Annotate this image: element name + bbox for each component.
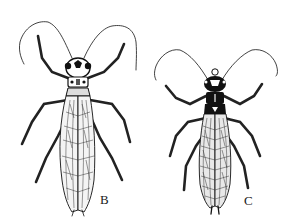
- specimen-b-eye-right: [85, 63, 91, 69]
- specimen-c-ocellus: [212, 69, 218, 75]
- specimen-c-pronotum-line: [214, 94, 216, 102]
- specimen-b-thorax: [66, 88, 90, 96]
- specimen-c-foreleg-right: [224, 84, 262, 104]
- illustration: B: [0, 0, 293, 223]
- specimen-b-antenna-left: [19, 22, 72, 64]
- specimen-c-wing-left: [199, 114, 215, 208]
- specimen-b-label: B: [100, 192, 109, 207]
- specimen-b-pronotum-spot: [70, 80, 73, 83]
- specimen-c-eye-highlight: [223, 81, 226, 84]
- specimen-b: [19, 22, 136, 216]
- specimen-c-cerci: [211, 206, 219, 214]
- specimen-b-pronotum-spot: [82, 80, 85, 83]
- specimen-b-antenna-right: [84, 26, 136, 70]
- specimen-b-foreleg-right: [88, 44, 124, 78]
- specimen-c-antenna-right: [222, 50, 278, 80]
- specimen-b-midleg-right: [90, 100, 130, 142]
- specimen-c-label: C: [244, 193, 253, 208]
- specimen-b-hindleg-right: [92, 120, 122, 180]
- specimen-b-cerci: [72, 210, 84, 216]
- specimen-c-wing-right: [215, 114, 231, 208]
- specimen-b-pronotum-spot: [76, 79, 80, 85]
- specimen-c-eye-highlight: [205, 81, 208, 84]
- specimen-b-foreleg-left: [38, 36, 68, 78]
- specimen-c-foreleg-left: [166, 86, 206, 104]
- specimen-c: [155, 50, 278, 214]
- specimen-c-antenna-left: [155, 50, 209, 80]
- specimen-b-eye-left: [65, 63, 71, 69]
- specimen-b-wing-left: [60, 96, 78, 212]
